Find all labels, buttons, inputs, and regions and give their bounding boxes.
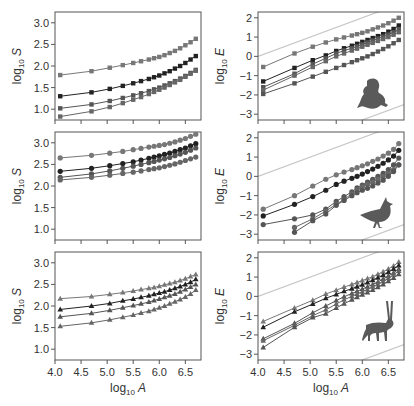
data-point: [261, 92, 265, 96]
data-point: [131, 170, 136, 175]
data-point: [261, 88, 265, 92]
y-tick-label: 1: [246, 31, 252, 43]
data-point: [324, 59, 328, 63]
data-point: [131, 164, 136, 169]
data-point: [58, 106, 62, 110]
x-tick-label: 6.5: [178, 366, 193, 378]
bird-icon: [360, 197, 393, 228]
data-point: [172, 161, 177, 166]
data-point: [194, 69, 198, 73]
data-point: [183, 294, 189, 299]
series-group: [58, 37, 198, 119]
y-tick-label: −3: [239, 108, 252, 120]
series-line: [60, 56, 196, 96]
data-point: [334, 172, 339, 177]
x-tick-label: 6.0: [152, 366, 167, 378]
data-point: [194, 37, 198, 41]
data-point: [157, 73, 161, 77]
data-point: [360, 171, 365, 176]
data-point: [360, 45, 364, 49]
data-point: [311, 58, 315, 62]
data-point: [386, 174, 391, 179]
x-axis-title-left: log10 A: [110, 381, 146, 397]
data-point: [324, 40, 328, 44]
data-point: [157, 143, 162, 148]
data-point: [292, 230, 297, 235]
y-tick-label: 2: [246, 12, 252, 24]
data-point: [157, 88, 161, 92]
data-point: [349, 176, 354, 181]
data-point: [334, 203, 339, 208]
data-point: [162, 53, 166, 57]
data-point: [120, 149, 125, 154]
data-point: [146, 145, 151, 150]
oryx-icon: [362, 301, 394, 341]
x-axis-ticks: 4.04.55.05.56.06.5: [47, 360, 193, 378]
data-point: [365, 186, 370, 191]
data-point: [310, 218, 315, 223]
y-tick-label: 1.5: [34, 202, 49, 214]
x-axis-ticks: [55, 120, 185, 124]
data-point: [162, 71, 166, 75]
data-point: [386, 151, 391, 156]
data-point: [58, 114, 62, 118]
y-axis-title: log10 E: [213, 167, 229, 204]
data-point: [292, 202, 297, 207]
data-point: [178, 151, 183, 156]
y-tick-label: 1: [246, 151, 252, 163]
data-point: [391, 18, 395, 22]
data-point: [360, 188, 365, 193]
series-line: [263, 262, 399, 321]
data-point: [371, 27, 375, 31]
y-tick-label: −1: [239, 70, 252, 82]
data-point: [152, 56, 156, 60]
y-axis-ticks: −3−2−1012: [239, 132, 258, 240]
data-point: [376, 25, 380, 29]
data-point: [183, 61, 187, 65]
data-point: [391, 154, 396, 159]
data-point: [89, 166, 94, 171]
y-tick-label: 1.5: [34, 82, 49, 94]
data-point: [261, 65, 265, 69]
data-point: [188, 279, 194, 284]
data-point: [157, 165, 162, 170]
data-point: [58, 94, 62, 98]
data-point: [310, 194, 315, 199]
data-point: [310, 183, 315, 188]
data-point: [120, 161, 125, 166]
data-point: [193, 287, 199, 292]
data-point: [167, 163, 172, 168]
data-point: [397, 30, 401, 34]
data-point: [365, 161, 370, 166]
panel-mammal-energy: −3−2−10124.04.55.05.56.06.5log10 E: [213, 242, 404, 398]
x-tick-label: 4.0: [47, 366, 62, 378]
data-point: [375, 156, 380, 161]
data-point: [193, 276, 199, 281]
data-point: [349, 167, 354, 172]
y-tick-label: 1.0: [34, 223, 49, 235]
data-point: [121, 96, 125, 100]
series-group: [261, 16, 401, 97]
data-point: [370, 183, 375, 188]
x-tick-label: 4.5: [276, 366, 291, 378]
y-tick-label: 1.0: [34, 103, 49, 115]
y-axis-ticks: 1.01.52.02.53.0: [34, 257, 55, 355]
data-point: [157, 55, 161, 59]
plot-frame: [258, 132, 404, 240]
x-tick-label: 5.0: [302, 366, 317, 378]
data-point: [193, 154, 198, 159]
data-point: [386, 35, 390, 39]
data-point: [108, 99, 112, 103]
y-tick-label: 2: [246, 252, 252, 264]
data-point: [183, 75, 187, 79]
data-point: [260, 344, 266, 349]
series-group: [260, 259, 401, 349]
data-point: [138, 162, 143, 167]
data-point: [121, 63, 125, 67]
data-point: [152, 90, 156, 94]
data-point: [323, 177, 328, 182]
y-tick-label: −2: [239, 209, 252, 221]
data-point: [292, 225, 297, 230]
y-axis-title: log10 S: [10, 48, 26, 84]
data-point: [89, 90, 93, 94]
